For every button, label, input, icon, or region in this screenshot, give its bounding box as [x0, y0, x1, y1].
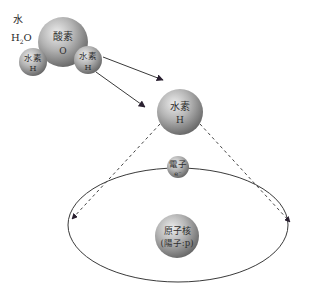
svg-text:H: H — [30, 64, 37, 73]
water-hydrogen-right: 水素 H — [74, 46, 102, 74]
dashed-guide-right — [200, 124, 290, 222]
arrow-to-hydrogen-1 — [103, 57, 163, 80]
svg-text:H: H — [85, 63, 92, 72]
arrow-to-hydrogen-2 — [96, 72, 145, 107]
svg-text:H: H — [176, 115, 184, 125]
svg-text:電子: 電子 — [169, 159, 187, 169]
dashed-guide-left — [72, 124, 160, 219]
hydrogen-atom-diagram: 水 H2O 酸素 O 水素 H 水素 H 水素 H 電子 e⁻ 原子核 (陽子:… — [0, 0, 309, 303]
svg-text:原子核: 原子核 — [164, 225, 191, 236]
water-label: 水 — [13, 14, 23, 25]
svg-text:O: O — [59, 46, 66, 56]
electron: 電子 e⁻ — [167, 156, 189, 178]
svg-text:酸素: 酸素 — [53, 30, 73, 42]
water-hydrogen-left: 水素 H — [19, 48, 47, 76]
nucleus: 原子核 (陽子:p) — [155, 214, 199, 258]
svg-text:水素: 水素 — [170, 100, 190, 112]
svg-text:e⁻: e⁻ — [174, 170, 181, 178]
water-formula: H2O — [11, 32, 32, 45]
svg-text:(陽子:p): (陽子:p) — [161, 238, 194, 248]
hydrogen-atom: 水素 H — [157, 89, 203, 135]
svg-text:水素: 水素 — [24, 53, 42, 63]
svg-text:水素: 水素 — [79, 51, 97, 61]
